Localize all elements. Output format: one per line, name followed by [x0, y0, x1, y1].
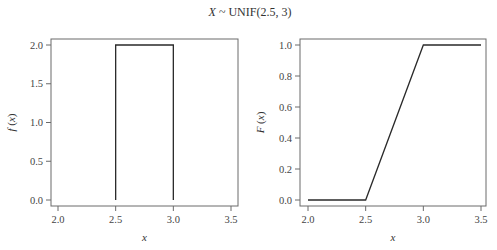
- x-tick-label: 3.5: [224, 214, 237, 225]
- x-tick-label: 2.5: [359, 214, 372, 225]
- y-tick-label: 1.5: [30, 78, 43, 89]
- plot-frame: [51, 39, 238, 206]
- y-tick-label: 0.2: [279, 164, 292, 175]
- chart-title: X ~ UNIF(2.5, 3): [208, 5, 292, 19]
- x-tick-label: 2.0: [51, 214, 64, 225]
- plot-frame: [300, 39, 486, 206]
- y-axis-title: f (x): [5, 113, 18, 131]
- pdf-plot-panel: 2.02.53.03.50.00.51.01.52.0xf (x): [5, 39, 238, 243]
- x-tick-label: 2.0: [301, 214, 314, 225]
- title-distribution: ~ UNIF(2.5, 3): [216, 5, 292, 19]
- y-tick-label: 2.0: [30, 40, 43, 51]
- y-tick-label: 0.0: [30, 195, 43, 206]
- y-tick-label: 0.6: [279, 102, 292, 113]
- y-tick-label: 0.4: [279, 133, 293, 144]
- x-axis-title: x: [141, 231, 147, 243]
- y-tick-label: 1.0: [30, 117, 43, 128]
- chart-canvas: X ~ UNIF(2.5, 3) 2.02.53.03.50.00.51.01.…: [0, 0, 497, 250]
- cdf-curve: [308, 45, 481, 200]
- x-tick-label: 3.0: [417, 214, 430, 225]
- x-axis-title: x: [390, 231, 396, 243]
- y-tick-label: 1.0: [279, 40, 292, 51]
- cdf-plot-panel: 2.02.53.03.50.00.20.40.60.81.0xF (x): [254, 39, 488, 243]
- y-tick-label: 0.8: [279, 71, 292, 82]
- x-tick-label: 3.0: [167, 214, 180, 225]
- x-tick-label: 2.5: [109, 214, 122, 225]
- y-tick-label: 0.5: [30, 156, 43, 167]
- y-axis-title: F (x): [254, 111, 267, 134]
- x-tick-label: 3.5: [474, 214, 487, 225]
- pdf-curve: [116, 45, 174, 200]
- y-tick-label: 0.0: [279, 195, 292, 206]
